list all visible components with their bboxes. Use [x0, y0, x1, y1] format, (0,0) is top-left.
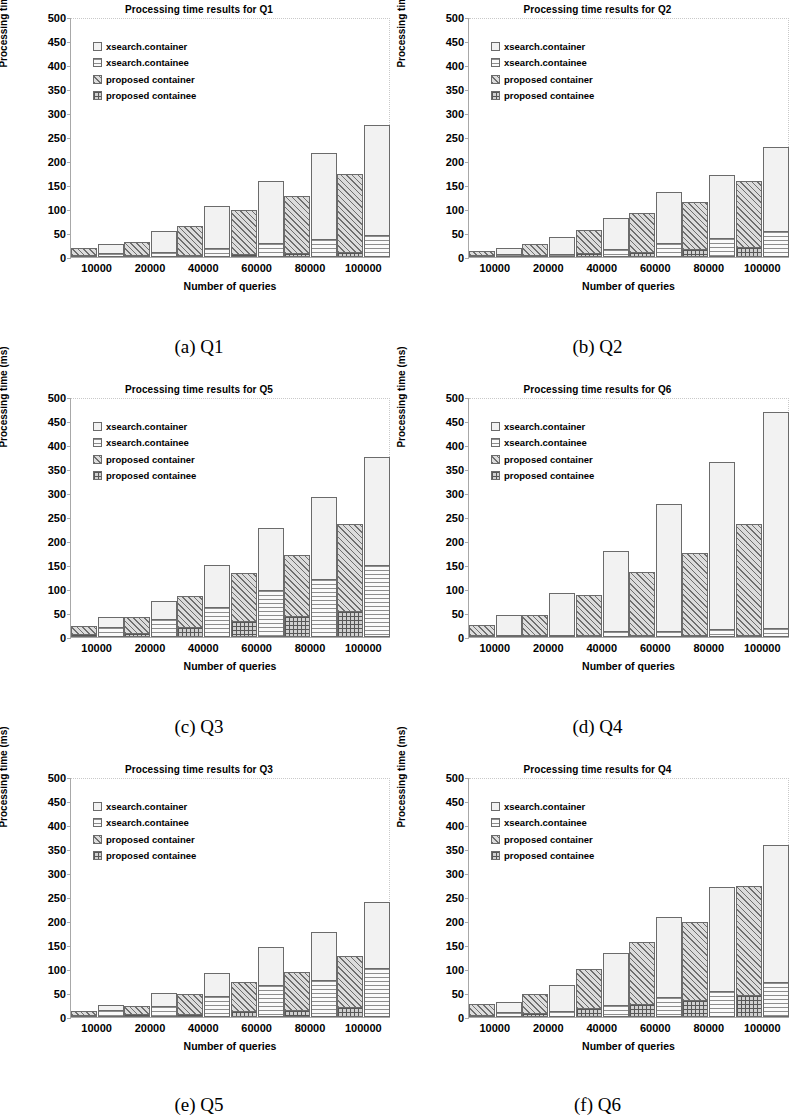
- bar-proposed[interactable]: [337, 524, 363, 637]
- bar-xsearch[interactable]: [603, 551, 629, 637]
- bar-proposed[interactable]: [71, 626, 97, 637]
- bar-xsearch[interactable]: [151, 993, 177, 1017]
- bar-proposed[interactable]: [124, 617, 150, 637]
- bar-proposed[interactable]: [231, 210, 257, 257]
- bar-group: [124, 18, 177, 257]
- bar-proposed[interactable]: [682, 553, 708, 637]
- bar-segment-xsearch-container: [496, 615, 522, 635]
- bar-xsearch[interactable]: [98, 617, 124, 637]
- bar-proposed[interactable]: [576, 969, 602, 1017]
- bar-proposed[interactable]: [469, 251, 495, 257]
- bar-proposed[interactable]: [629, 572, 655, 637]
- bar-segment-proposed-containee: [337, 611, 363, 637]
- bar-proposed[interactable]: [522, 244, 548, 257]
- bar-proposed[interactable]: [682, 922, 708, 1018]
- bar-proposed[interactable]: [177, 994, 203, 1017]
- bar-segment-xsearch-containee: [258, 590, 284, 637]
- bar-xsearch[interactable]: [709, 887, 735, 1017]
- bar-proposed[interactable]: [284, 972, 310, 1017]
- bar-proposed[interactable]: [284, 196, 310, 257]
- bar-proposed[interactable]: [522, 994, 548, 1017]
- bar-proposed[interactable]: [736, 886, 762, 1017]
- bar-proposed[interactable]: [576, 595, 602, 637]
- bar-xsearch[interactable]: [709, 462, 735, 637]
- bar-proposed[interactable]: [522, 615, 548, 637]
- bar-group: [231, 778, 284, 1017]
- bar-xsearch[interactable]: [709, 175, 735, 257]
- bar-xsearch[interactable]: [98, 1005, 124, 1017]
- bar-proposed[interactable]: [736, 524, 762, 637]
- y-axis-title: Processing time (ms): [396, 712, 407, 842]
- plot-frame: xsearch.containerxsearch.containeepropos…: [70, 778, 390, 1018]
- bar-xsearch[interactable]: [311, 497, 337, 637]
- bar-segment-xsearch-container: [603, 551, 629, 631]
- bar-proposed[interactable]: [177, 226, 203, 257]
- bar-segment-xsearch-containee: [603, 631, 629, 637]
- bar-xsearch[interactable]: [151, 601, 177, 637]
- bar-segment-xsearch-container: [603, 953, 629, 1005]
- bar-xsearch[interactable]: [364, 125, 390, 257]
- y-axis-tick: [67, 1018, 71, 1019]
- bar-xsearch[interactable]: [204, 973, 230, 1017]
- bar-xsearch[interactable]: [549, 593, 575, 637]
- bar-xsearch[interactable]: [656, 917, 682, 1017]
- bar-xsearch[interactable]: [204, 565, 230, 637]
- bar-proposed[interactable]: [124, 1006, 150, 1018]
- bar-proposed[interactable]: [337, 174, 363, 257]
- bar-xsearch[interactable]: [549, 237, 575, 257]
- bar-xsearch[interactable]: [258, 181, 284, 257]
- bar-segment-xsearch-containee: [258, 985, 284, 1017]
- bar-xsearch[interactable]: [151, 231, 177, 257]
- bar-proposed[interactable]: [231, 982, 257, 1018]
- bar-xsearch[interactable]: [311, 153, 337, 257]
- bar-xsearch[interactable]: [364, 902, 390, 1017]
- bar-xsearch[interactable]: [603, 953, 629, 1017]
- bar-xsearch[interactable]: [763, 147, 789, 257]
- y-tick-label: 50: [452, 229, 464, 240]
- bar-proposed[interactable]: [124, 242, 150, 257]
- y-tick-label: 50: [54, 229, 66, 240]
- bar-xsearch[interactable]: [258, 947, 284, 1017]
- bar-group: [231, 18, 284, 257]
- bar-proposed[interactable]: [469, 1004, 495, 1017]
- bar-xsearch[interactable]: [496, 615, 522, 637]
- bar-xsearch[interactable]: [364, 457, 390, 637]
- bar-xsearch[interactable]: [763, 845, 789, 1017]
- bar-proposed[interactable]: [71, 248, 97, 257]
- bar-xsearch[interactable]: [311, 932, 337, 1017]
- bar-proposed[interactable]: [736, 181, 762, 257]
- bar-group: [284, 398, 337, 637]
- bar-segment-xsearch-container: [258, 947, 284, 985]
- bar-proposed[interactable]: [284, 555, 310, 637]
- bar-segment-xsearch-container: [364, 457, 390, 565]
- bar-proposed[interactable]: [629, 213, 655, 257]
- bar-segment-proposed-containee: [231, 254, 257, 257]
- bar-xsearch[interactable]: [656, 504, 682, 637]
- bar-proposed[interactable]: [629, 942, 655, 1017]
- bar-segment-proposed-containee: [736, 635, 762, 637]
- bar-proposed[interactable]: [576, 230, 602, 257]
- bar-xsearch[interactable]: [656, 192, 682, 257]
- bar-xsearch[interactable]: [549, 985, 575, 1017]
- y-tick-label: 350: [48, 845, 66, 856]
- x-tick-label: 20000: [123, 642, 176, 658]
- bar-segment-xsearch-containee: [603, 1005, 629, 1017]
- bar-xsearch[interactable]: [204, 206, 230, 257]
- bar-xsearch[interactable]: [258, 528, 284, 637]
- bar-xsearch[interactable]: [98, 244, 124, 257]
- bar-proposed[interactable]: [71, 1011, 97, 1017]
- bar-segment-proposed-container: [231, 573, 257, 621]
- bar-proposed[interactable]: [682, 202, 708, 257]
- bar-xsearch[interactable]: [496, 248, 522, 257]
- x-axis-tick-labels: 1000020000400006000080000100000: [70, 262, 390, 278]
- y-axis-tick: [465, 1018, 469, 1019]
- bar-xsearch[interactable]: [603, 218, 629, 257]
- bar-proposed[interactable]: [177, 596, 203, 637]
- bar-xsearch[interactable]: [496, 1002, 522, 1017]
- bar-segment-proposed-container: [177, 596, 203, 627]
- bar-proposed[interactable]: [337, 956, 363, 1017]
- bar-proposed[interactable]: [469, 625, 495, 637]
- bar-xsearch[interactable]: [763, 412, 789, 637]
- bar-proposed[interactable]: [231, 573, 257, 637]
- bar-series-container: [71, 398, 390, 637]
